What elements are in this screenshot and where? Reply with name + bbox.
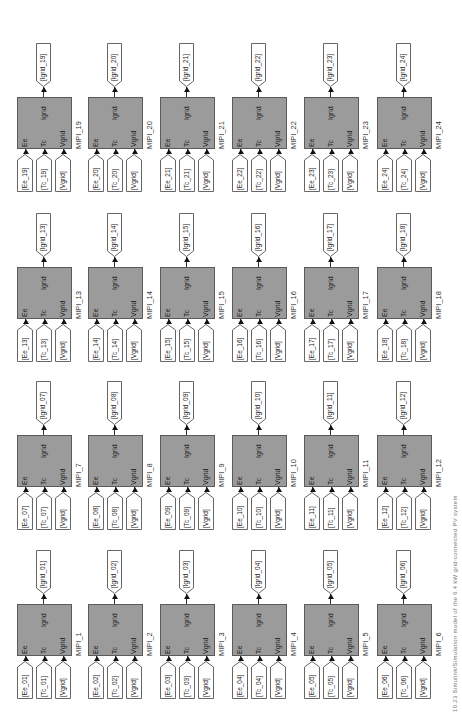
input-from-tag[interactable]: [Vgrid] [342,324,358,362]
input-from-tag[interactable]: [Ee_11] [304,492,320,530]
mipi-block[interactable]: EeTcVgridIgrid [160,267,215,319]
mipi-block[interactable]: EeTcVgridIgrid [304,267,359,319]
input-from-tag[interactable]: [Vgrid] [270,154,286,192]
input-from-tag[interactable]: [Ee_10] [232,492,248,530]
input-from-tag[interactable]: [Ee_08] [88,492,104,530]
mipi-block[interactable]: EeTcVgridIgrid [304,435,359,487]
input-from-tag[interactable]: [Tc_23] [323,154,339,192]
input-from-tag[interactable]: [Vgrid] [342,154,358,192]
input-from-tag[interactable]: [Tc_06] [396,661,412,699]
input-from-tag[interactable]: [Vgrid] [270,661,286,699]
mipi-block[interactable]: EeTcVgridIgrid [88,435,143,487]
output-goto-tag[interactable]: [Igrid_18] [396,213,411,257]
input-from-tag[interactable]: [Ee_02] [88,661,104,699]
mipi-block[interactable]: EeTcVgridIgrid [377,267,432,319]
input-from-tag[interactable]: [Ee_09] [160,492,176,530]
input-from-tag[interactable]: [Vgrid] [415,661,431,699]
input-from-tag[interactable]: [Vgrid] [342,661,358,699]
input-from-tag[interactable]: [Ee_22] [232,154,248,192]
input-from-tag[interactable]: [Vgrid] [126,492,142,530]
input-from-tag[interactable]: [Tc_19] [36,154,52,192]
input-from-tag[interactable]: [Vgrid] [55,492,71,530]
mipi-block[interactable]: EeTcVgridIgrid [17,267,72,319]
mipi-block[interactable]: EeTcVgridIgrid [88,97,143,149]
output-goto-tag[interactable]: [Igrid_20] [107,43,122,87]
input-from-tag[interactable]: [Ee_17] [304,324,320,362]
input-from-tag[interactable]: [Tc_03] [179,661,195,699]
input-from-tag[interactable]: [Tc_18] [396,324,412,362]
mipi-block[interactable]: EeTcVgridIgrid [232,97,287,149]
mipi-block[interactable]: EeTcVgridIgrid [377,435,432,487]
input-from-tag[interactable]: [Ee_24] [377,154,393,192]
input-from-tag[interactable]: [Vgrid] [198,661,214,699]
input-from-tag[interactable]: [Ee_14] [88,324,104,362]
output-goto-tag[interactable]: [Igrid_22] [251,43,266,87]
output-goto-tag[interactable]: [Igrid_12] [396,381,411,425]
input-from-tag[interactable]: [Ee_15] [160,324,176,362]
output-goto-tag[interactable]: [Igrid_21] [179,43,194,87]
output-goto-tag[interactable]: [Igrid_08] [107,381,122,425]
output-goto-tag[interactable]: [Igrid_19] [36,43,51,87]
output-goto-tag[interactable]: [Igrid_14] [107,213,122,257]
input-from-tag[interactable]: [Vgrid] [198,492,214,530]
input-from-tag[interactable]: [Vgrid] [415,154,431,192]
input-from-tag[interactable]: [Tc_04] [251,661,267,699]
input-from-tag[interactable]: [Vgrid] [198,324,214,362]
input-from-tag[interactable]: [Ee_13] [17,324,33,362]
mipi-block[interactable]: EeTcVgridIgrid [160,435,215,487]
input-from-tag[interactable]: [Tc_20] [107,154,123,192]
input-from-tag[interactable]: [Tc_02] [107,661,123,699]
input-from-tag[interactable]: [Vgrid] [126,324,142,362]
mipi-block[interactable]: EeTcVgridIgrid [160,97,215,149]
output-goto-tag[interactable]: [Igrid_03] [179,550,194,594]
output-goto-tag[interactable]: [Igrid_13] [36,213,51,257]
mipi-block[interactable]: EeTcVgridIgrid [304,97,359,149]
input-from-tag[interactable]: [Vgrid] [415,492,431,530]
mipi-block[interactable]: EeTcVgridIgrid [232,267,287,319]
output-goto-tag[interactable]: [Igrid_17] [323,213,338,257]
input-from-tag[interactable]: [Ee_07] [17,492,33,530]
input-from-tag[interactable]: [Tc_21] [179,154,195,192]
input-from-tag[interactable]: [Ee_19] [17,154,33,192]
mipi-block[interactable]: EeTcVgridIgrid [17,435,72,487]
input-from-tag[interactable]: [Ee_05] [304,661,320,699]
mipi-block[interactable]: EeTcVgridIgrid [17,97,72,149]
output-goto-tag[interactable]: [Igrid_16] [251,213,266,257]
input-from-tag[interactable]: [Vgrid] [342,492,358,530]
input-from-tag[interactable]: [Ee_18] [377,324,393,362]
output-goto-tag[interactable]: [Igrid_09] [179,381,194,425]
input-from-tag[interactable]: [Tc_05] [323,661,339,699]
input-from-tag[interactable]: [Vgrid] [55,324,71,362]
input-from-tag[interactable]: [Ee_01] [17,661,33,699]
input-from-tag[interactable]: [Ee_23] [304,154,320,192]
output-goto-tag[interactable]: [Igrid_23] [323,43,338,87]
input-from-tag[interactable]: [Tc_11] [323,492,339,530]
input-from-tag[interactable]: [Ee_20] [88,154,104,192]
mipi-block[interactable]: EeTcVgridIgrid [304,604,359,656]
input-from-tag[interactable]: [Ee_16] [232,324,248,362]
input-from-tag[interactable]: [Vgrid] [270,324,286,362]
input-from-tag[interactable]: [Tc_12] [396,492,412,530]
input-from-tag[interactable]: [Vgrid] [198,154,214,192]
input-from-tag[interactable]: [Vgrid] [270,492,286,530]
mipi-block[interactable]: EeTcVgridIgrid [88,604,143,656]
input-from-tag[interactable]: [Tc_09] [179,492,195,530]
mipi-block[interactable]: EeTcVgridIgrid [377,604,432,656]
input-from-tag[interactable]: [Tc_08] [107,492,123,530]
output-goto-tag[interactable]: [Igrid_02] [107,550,122,594]
mipi-block[interactable]: EeTcVgridIgrid [377,97,432,149]
output-goto-tag[interactable]: [Igrid_06] [396,550,411,594]
input-from-tag[interactable]: [Tc_13] [36,324,52,362]
output-goto-tag[interactable]: [Igrid_01] [36,550,51,594]
input-from-tag[interactable]: [Ee_06] [377,661,393,699]
input-from-tag[interactable]: [Vgrid] [415,324,431,362]
input-from-tag[interactable]: [Tc_07] [36,492,52,530]
mipi-block[interactable]: EeTcVgridIgrid [232,435,287,487]
input-from-tag[interactable]: [Vgrid] [126,661,142,699]
input-from-tag[interactable]: [Tc_10] [251,492,267,530]
input-from-tag[interactable]: [Vgrid] [126,154,142,192]
input-from-tag[interactable]: [Tc_14] [107,324,123,362]
input-from-tag[interactable]: [Tc_16] [251,324,267,362]
input-from-tag[interactable]: [Ee_12] [377,492,393,530]
input-from-tag[interactable]: [Tc_01] [36,661,52,699]
